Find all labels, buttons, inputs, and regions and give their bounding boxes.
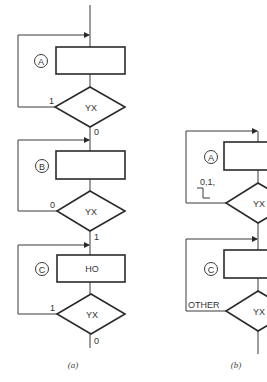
block-label-b-a: A [208, 153, 214, 163]
block-c-group: HO C YX 1 0 [18, 245, 125, 346]
block-label-c: C [39, 265, 46, 275]
loop-condition-b-c: OTHER [188, 300, 220, 310]
block-label-a: A [38, 57, 44, 67]
loop-condition-b: 0 [50, 200, 55, 210]
process-text-c: HO [85, 264, 99, 274]
decision-text-b-c: YX [253, 307, 265, 317]
block-b-group: B YX 0 1 [18, 140, 125, 242]
process-box-b-c [224, 250, 267, 278]
falling-edge-step-icon [197, 188, 210, 198]
process-box-a [56, 47, 125, 74]
block-label-b-c: C [208, 265, 215, 275]
loop-condition-c: 1 [50, 303, 55, 313]
caption-b: (b) [231, 360, 242, 370]
process-box-b [56, 151, 125, 179]
loop-condition-a: 1 [49, 96, 54, 106]
loop-condition-b-a: 0,1, [200, 177, 215, 187]
block-label-b: B [39, 162, 45, 172]
block-b-a-group: A YX 0,1, [186, 131, 267, 223]
process-box-b-a [224, 142, 267, 170]
block-a-group: A YX 1 0 [18, 35, 125, 137]
exit-condition-c: 0 [94, 336, 99, 346]
decision-text-b: YX [85, 207, 97, 217]
exit-condition-b: 1 [94, 232, 99, 242]
exit-condition-a: 0 [94, 127, 99, 137]
flowchart-figure: A YX 1 0 B YX 0 1 HO C YX 1 0 [0, 0, 267, 382]
decision-text-a: YX [85, 103, 97, 113]
diagram-b: A YX 0,1, C YX OTHER (b) [186, 131, 267, 370]
diagram-a: A YX 1 0 B YX 0 1 HO C YX 1 0 [18, 5, 125, 370]
caption-a: (a) [68, 360, 79, 370]
block-b-c-group: C YX OTHER [186, 239, 267, 331]
decision-text-c: YX [86, 310, 98, 320]
decision-text-b-a: YX [253, 199, 265, 209]
